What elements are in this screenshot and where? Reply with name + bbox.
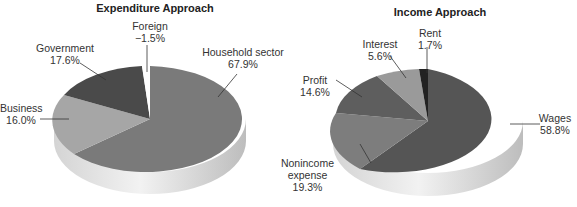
chart-title-expenditure: Expenditure Approach — [95, 2, 215, 14]
label-profit: Profit 14.6% — [290, 74, 340, 98]
label-interest-value: 5.6% — [355, 50, 405, 62]
label-rent-name: Rent — [410, 27, 450, 39]
label-profit-value: 14.6% — [290, 86, 340, 98]
income-pie — [330, 47, 540, 196]
label-business-value: 16.0% — [0, 114, 42, 126]
label-interest-name: Interest — [355, 38, 405, 50]
label-nonincome-value: 19.3% — [270, 181, 345, 193]
label-foreign-value: −1.5% — [125, 32, 175, 44]
label-business-name: Business — [0, 102, 42, 114]
label-government: Government 17.6% — [30, 42, 100, 66]
label-wages: Wages 58.8% — [535, 112, 575, 136]
label-nonincome: Nonincome expense 19.3% — [270, 157, 345, 193]
label-profit-name: Profit — [290, 74, 340, 86]
label-household: Household sector 67.9% — [198, 46, 288, 70]
label-nonincome-name1: Nonincome — [270, 157, 345, 169]
label-government-name: Government — [30, 42, 100, 54]
label-interest: Interest 5.6% — [355, 38, 405, 62]
label-household-name: Household sector — [198, 46, 288, 58]
label-wages-value: 58.8% — [535, 124, 575, 136]
label-rent-value: 1.7% — [410, 39, 450, 51]
label-rent: Rent 1.7% — [410, 27, 450, 51]
label-business: Business 16.0% — [0, 102, 42, 126]
label-household-value: 67.9% — [198, 58, 288, 70]
label-government-value: 17.6% — [30, 54, 100, 66]
label-wages-name: Wages — [535, 112, 575, 124]
label-nonincome-name2: expense — [270, 169, 345, 181]
chart-title-income: Income Approach — [390, 6, 490, 18]
label-foreign: Foreign −1.5% — [125, 20, 175, 44]
label-foreign-name: Foreign — [125, 20, 175, 32]
